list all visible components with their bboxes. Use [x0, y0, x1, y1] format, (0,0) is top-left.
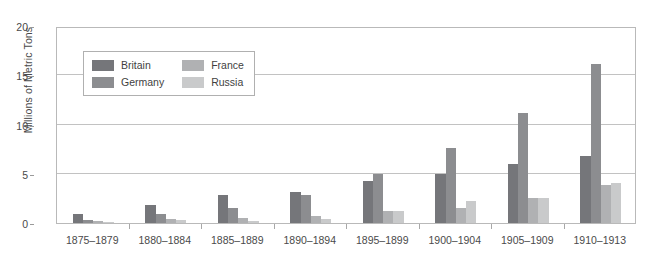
y-tick-label-20: 20	[0, 21, 28, 33]
legend-item-france: France	[182, 59, 244, 71]
bar-germany-1890–1894	[301, 195, 311, 223]
bar-britain-1880–1884	[145, 205, 155, 223]
bar-france-1895–1899	[383, 211, 393, 223]
bar-france-1890–1894	[311, 216, 321, 223]
chart-legend: BritainFranceGermanyRussia	[83, 51, 255, 96]
x-tick-label-1895–1899: 1895–1899	[356, 234, 409, 246]
x-divider-tick	[491, 224, 492, 229]
bar-group	[290, 28, 331, 223]
bar-france-1875–1879	[93, 221, 103, 223]
x-tick-label-1910–1913: 1910–1913	[573, 234, 626, 246]
legend-label: Germany	[121, 76, 164, 88]
legend-swatch-icon-france	[182, 60, 204, 71]
bar-russia-1880–1884	[176, 220, 186, 223]
bar-group	[508, 28, 549, 223]
bar-britain-1895–1899	[363, 181, 373, 223]
y-tick-mark-0	[30, 224, 34, 225]
bar-britain-1875–1879	[73, 214, 83, 223]
bar-chart: Millions of Metric Tons 05101520 1875–18…	[0, 0, 650, 262]
y-tick-mark-10	[30, 126, 34, 127]
bar-germany-1900–1904	[446, 148, 456, 223]
x-divider-tick	[419, 224, 420, 229]
bar-britain-1910–1913	[580, 156, 590, 223]
bar-france-1900–1904	[456, 208, 466, 223]
legend-label: France	[211, 59, 244, 71]
bar-russia-1910–1913	[611, 183, 621, 223]
y-tick-label-10: 10	[0, 120, 28, 132]
bar-france-1885–1889	[238, 218, 248, 223]
x-divider-tick	[346, 224, 347, 229]
legend-swatch-icon-russia	[182, 77, 204, 88]
bar-russia-1885–1889	[248, 221, 258, 223]
x-tick-label-1875–1879: 1875–1879	[66, 234, 119, 246]
x-divider-tick	[564, 224, 565, 229]
y-tick-label-5: 5	[0, 169, 28, 181]
bar-germany-1910–1913	[591, 64, 601, 223]
bar-germany-1895–1899	[373, 174, 383, 223]
y-tick-label-15: 15	[0, 70, 28, 82]
bar-france-1905–1909	[528, 198, 538, 223]
bar-russia-1905–1909	[538, 198, 548, 223]
y-tick-label-0: 0	[0, 218, 28, 230]
x-tick-label-1890–1894: 1890–1894	[283, 234, 336, 246]
legend-item-russia: Russia	[182, 76, 244, 88]
x-divider-tick	[274, 224, 275, 229]
x-divider-tick	[201, 224, 202, 229]
bar-russia-1875–1879	[103, 222, 113, 223]
x-tick-label-1905–1909: 1905–1909	[501, 234, 554, 246]
x-tick-label-1885–1889: 1885–1889	[211, 234, 264, 246]
x-tick-label-1880–1884: 1880–1884	[138, 234, 191, 246]
x-tick-label-1900–1904: 1900–1904	[428, 234, 481, 246]
bar-britain-1885–1889	[218, 195, 228, 223]
bar-russia-1890–1894	[321, 219, 331, 223]
legend-item-germany: Germany	[92, 76, 164, 88]
y-tick-mark-15	[30, 76, 34, 77]
legend-swatch-icon-britain	[92, 60, 114, 71]
legend-label: Russia	[211, 76, 243, 88]
bar-group	[435, 28, 476, 223]
bar-britain-1890–1894	[290, 192, 300, 223]
legend-item-britain: Britain	[92, 59, 164, 71]
bar-russia-1900–1904	[466, 201, 476, 223]
y-tick-mark-5	[30, 175, 34, 176]
bar-germany-1905–1909	[518, 113, 528, 223]
bar-britain-1900–1904	[435, 174, 445, 223]
bar-germany-1880–1884	[156, 214, 166, 223]
x-divider-tick	[129, 224, 130, 229]
legend-swatch-icon-germany	[92, 77, 114, 88]
legend-label: Britain	[121, 59, 151, 71]
bar-france-1910–1913	[601, 185, 611, 223]
bar-group	[580, 28, 621, 223]
bar-france-1880–1884	[166, 219, 176, 223]
bar-germany-1885–1889	[228, 208, 238, 223]
bar-russia-1895–1899	[393, 211, 403, 223]
bar-group	[363, 28, 404, 223]
bar-germany-1875–1879	[83, 220, 93, 223]
y-tick-mark-20	[30, 27, 34, 28]
bar-britain-1905–1909	[508, 164, 518, 223]
